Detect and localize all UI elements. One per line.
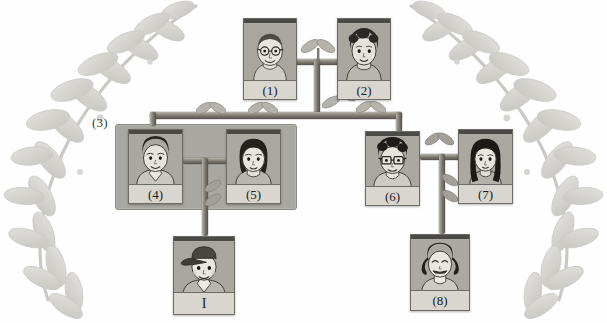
- portrait-woman-long-hair: [459, 134, 512, 187]
- portrait-man-glasses-curly-hair: [366, 136, 419, 189]
- person-card-label: (4): [129, 184, 182, 203]
- person-card-label: (1): [244, 80, 296, 99]
- connector-sibling-bar: [150, 112, 402, 119]
- person-card-8[interactable]: (8): [410, 234, 470, 311]
- portrait-elderly-man-glasses: [244, 23, 296, 83]
- person-card-label: (5): [227, 184, 280, 203]
- person-card-label: (8): [411, 290, 469, 310]
- person-card-2[interactable]: (2): [337, 18, 391, 100]
- person-card-label: (7): [459, 184, 512, 203]
- portrait-elderly-woman-curly-hair: [338, 23, 390, 83]
- family-tree-diagram: (3): [0, 0, 607, 323]
- connector-descend-1-2: [314, 59, 320, 117]
- group-label-3: (3): [92, 115, 108, 131]
- person-card-5[interactable]: (5): [226, 129, 281, 204]
- portrait-woman-bob-hair: [227, 134, 280, 187]
- person-card-7[interactable]: (7): [458, 129, 513, 204]
- portrait-boy-with-cap: [174, 241, 234, 297]
- person-card-self[interactable]: I: [173, 236, 235, 315]
- person-card-label: (2): [338, 80, 390, 99]
- person-card-4[interactable]: (4): [128, 129, 183, 204]
- person-card-1[interactable]: (1): [243, 18, 297, 100]
- portrait-man-short-hair-collar-shirt: [129, 134, 182, 187]
- connector-descend-4-5: [202, 158, 208, 236]
- connector-drop-to-6: [396, 112, 402, 132]
- connector-drop-to-group-3: [150, 112, 156, 126]
- person-card-label: (6): [366, 186, 419, 205]
- connector-descend-6-7: [439, 154, 445, 234]
- person-card-label: I: [174, 292, 234, 314]
- portrait-girl-pigtails-laughing: [411, 239, 469, 294]
- person-card-6[interactable]: (6): [365, 131, 420, 206]
